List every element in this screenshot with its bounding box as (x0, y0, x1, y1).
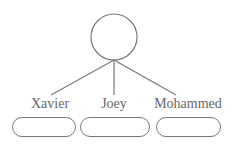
child-label-mohammed: Mohammed (154, 96, 222, 112)
child-box-mohammed (156, 117, 221, 137)
tree-connectors (0, 0, 234, 164)
edge-mohammed (114, 60, 176, 95)
child-label-xavier: Xavier (31, 96, 69, 112)
root-node-circle (91, 14, 137, 60)
child-box-xavier (12, 117, 76, 137)
child-box-joey (80, 117, 150, 137)
child-label-joey: Joey (101, 96, 127, 112)
edge-xavier (51, 60, 114, 95)
